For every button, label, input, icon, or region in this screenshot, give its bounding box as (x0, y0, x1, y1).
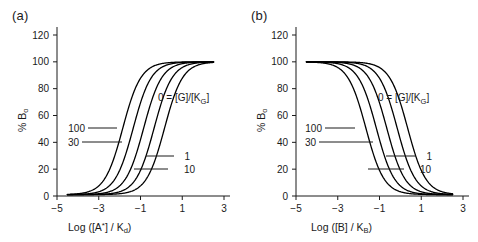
x-axis-label-prefix: Log ([A (68, 221, 102, 233)
y-tick-label: 20 (277, 164, 289, 175)
panel-a-plot: 020406080100120−5−3−113100301100 = [G]/[… (0, 0, 239, 242)
y-tick-label: 20 (38, 164, 50, 175)
x-tick-label: −5 (51, 203, 63, 214)
curve-label: 100 (68, 123, 85, 134)
x-axis-label-sub: d (124, 226, 128, 235)
y-axis-label-main: % B (16, 113, 28, 132)
y-tick-label: 0 (282, 191, 288, 202)
y-tick-label: 60 (277, 110, 289, 121)
x-tick-label: 1 (418, 203, 424, 214)
y-tick-label: 80 (277, 83, 289, 94)
curve-label: 100 (305, 123, 322, 134)
annotations-group: 100301100 = [G]/[KG] (68, 92, 210, 175)
x-axis-label-star: * (102, 221, 105, 230)
legend-key: 0 = [G]/[KG] (378, 92, 429, 106)
x-tick-label: 3 (221, 203, 227, 214)
y-axis-label-sub: o (260, 109, 269, 113)
y-tick-label: 40 (38, 137, 50, 148)
y-tick-label: 100 (32, 56, 49, 67)
y-tick-label: 60 (38, 110, 50, 121)
y-tick-label: 0 (43, 191, 49, 202)
panel-b-x-axis-label: Log ([B] / KB) (311, 221, 372, 233)
panel-b: (b) 020406080100120−5−3−113100301100 = [… (239, 0, 478, 242)
legend-key: 0 = [G]/[KG] (158, 92, 209, 106)
curve-label: 1 (184, 151, 190, 162)
axes-group: 020406080100120−5−3−113 (32, 27, 230, 214)
x-tick-label: −3 (332, 203, 344, 214)
y-axis-label-main: % B (255, 113, 267, 132)
dose-response-curve (67, 62, 213, 194)
y-tick-label: 120 (271, 30, 288, 41)
x-tick-label: −5 (290, 203, 302, 214)
panel-b-y-axis-label: % Bo (255, 109, 267, 132)
panel-a-x-axis-label: Log ([A*] / Kd) (68, 221, 131, 233)
y-tick-label: 40 (277, 137, 289, 148)
curve-label: 30 (68, 137, 80, 148)
x-axis-label-suffix: ) (128, 221, 132, 233)
y-tick-label: 120 (32, 30, 49, 41)
panel-a-y-axis-label: % Bo (16, 109, 28, 132)
x-axis-label-sub: B (364, 226, 369, 235)
x-axis-label-suffix: ) (369, 221, 373, 233)
axes-group: 020406080100120−5−3−113 (271, 27, 469, 214)
x-tick-label: 3 (460, 203, 466, 214)
annotations-group: 100301100 = [G]/[KG] (305, 92, 433, 175)
x-tick-label: −3 (93, 203, 105, 214)
y-tick-label: 100 (271, 56, 288, 67)
y-tick-label: 80 (38, 83, 50, 94)
curve-label: 30 (305, 137, 317, 148)
curve-label: 10 (184, 164, 196, 175)
figure-root: (a) 020406080100120−5−3−113100301100 = [… (0, 0, 478, 242)
x-tick-label: −1 (374, 203, 386, 214)
x-axis-label-mid: ] / K (105, 221, 124, 233)
x-tick-label: −1 (135, 203, 147, 214)
panel-a: (a) 020406080100120−5−3−113100301100 = [… (0, 0, 239, 242)
axis-lines (57, 27, 230, 196)
y-axis-label-sub: o (21, 109, 30, 113)
panel-b-plot: 020406080100120−5−3−113100301100 = [G]/[… (239, 0, 478, 242)
x-axis-label-prefix: Log ([B] / K (311, 221, 364, 233)
x-tick-label: 1 (179, 203, 185, 214)
curve-label: 10 (420, 164, 432, 175)
curve-label: 1 (426, 151, 432, 162)
